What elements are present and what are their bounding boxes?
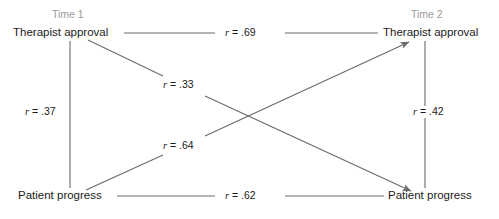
node-label-therapist-approval-time1: Therapist approval [13, 27, 108, 39]
time-header-time1: Time 1 [52, 9, 84, 20]
r-value: = .64 [167, 139, 194, 151]
path-label-synchronous-time1: r = .37 [22, 106, 59, 118]
cross-lagged-panel-diagram: Time 1 Time 2 Therapist approval Patient… [0, 0, 499, 219]
path-label-stability-patient: r = .62 [222, 190, 259, 202]
time-header-time2: Time 2 [411, 9, 443, 20]
node-label-patient-progress-time1: Patient progress [18, 190, 102, 202]
path-label-synchronous-time2: r = .42 [410, 106, 447, 118]
path-label-crosslag-progress-to-approval: r = .64 [160, 140, 197, 152]
path-line-crosslag-progress-to-approval-a [86, 155, 163, 190]
r-value: = .33 [167, 78, 194, 90]
r-value: = .69 [229, 26, 256, 38]
r-value: = .62 [229, 189, 256, 201]
path-label-crosslag-approval-to-progress: r = .33 [160, 79, 197, 91]
node-label-patient-progress-time2: Patient progress [388, 190, 472, 202]
r-value: = .42 [417, 105, 444, 117]
path-label-stability-therapist: r = .69 [222, 27, 259, 39]
node-label-therapist-approval-time2: Therapist approval [383, 27, 478, 39]
path-line-crosslag-progress-to-approval-b [205, 42, 409, 136]
r-value: = .37 [29, 105, 56, 117]
path-line-crosslag-approval-to-progress-b [205, 96, 411, 191]
path-line-crosslag-approval-to-progress-a [88, 40, 163, 76]
